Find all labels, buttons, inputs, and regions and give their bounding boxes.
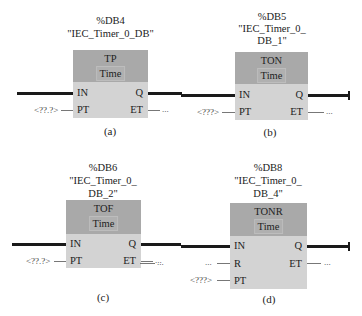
pin-pt: PT — [234, 275, 246, 287]
instance-name-line2: DB_2" — [53, 187, 153, 200]
caption: (b) — [255, 126, 285, 138]
et-connector — [307, 263, 321, 264]
rail-terminator — [348, 91, 350, 100]
timer-block[interactable]: TOF Time IN PT Q ET — [66, 200, 141, 268]
pin-q: Q — [128, 238, 136, 250]
pin-q: Q — [135, 87, 143, 99]
timer-type: TP — [73, 53, 148, 64]
power-rail-out — [308, 94, 349, 97]
pin-in: IN — [234, 240, 245, 252]
db-address: %DB6 — [53, 161, 153, 174]
timer-type: TONR — [230, 206, 307, 217]
power-rail-in — [181, 245, 230, 248]
pin-in: IN — [70, 238, 81, 250]
pt-value[interactable]: <???> — [197, 107, 219, 117]
pin-in: IN — [77, 87, 88, 99]
timer-type: TOF — [66, 203, 141, 214]
pt-connector — [54, 261, 66, 262]
power-rail-in — [17, 92, 73, 95]
power-rail-out — [141, 243, 181, 246]
instance-name: "IEC_Timer_0_DB" — [50, 27, 171, 40]
pin-pt: PT — [239, 106, 251, 118]
timer-type: TON — [235, 55, 308, 66]
rail-terminator — [348, 242, 350, 251]
power-rail-in — [181, 94, 235, 97]
pt-connector — [217, 280, 230, 281]
caption: (d) — [254, 293, 284, 305]
pin-q: Q — [295, 89, 303, 101]
caption: (a) — [95, 125, 125, 137]
r-value[interactable]: ... — [205, 257, 212, 267]
db-address: %DB4 — [60, 14, 161, 27]
timer-block[interactable]: TON Time IN PT Q ET — [235, 52, 308, 120]
instance-name-line2: DB_4" — [218, 187, 318, 200]
instance-name-line1: "IEC_Timer_0_ — [43, 174, 163, 187]
time-type-field[interactable]: Time — [89, 216, 119, 231]
et-connector — [148, 110, 160, 111]
pin-et: ET — [123, 255, 136, 267]
power-rail-in — [12, 243, 66, 246]
et-value[interactable]: ... — [162, 104, 169, 114]
et-value[interactable]: ... — [326, 106, 333, 116]
pt-connector — [61, 110, 73, 111]
pin-pt: PT — [70, 255, 82, 267]
pin-q: Q — [294, 240, 302, 252]
time-type-field[interactable]: Time — [257, 68, 287, 83]
block-header: TON Time — [235, 52, 308, 84]
stray-ellipsis: ... — [157, 257, 164, 267]
et-connector — [308, 112, 324, 113]
block-header: TP Time — [73, 50, 148, 82]
pin-et: ET — [289, 258, 302, 270]
pin-et: ET — [130, 104, 143, 116]
pin-in: IN — [239, 89, 250, 101]
block-header: TOF Time — [66, 200, 141, 234]
block-header: TONR Time — [230, 203, 307, 236]
r-connector — [217, 263, 230, 264]
pt-connector — [222, 112, 235, 113]
pt-value[interactable]: <???> — [190, 275, 212, 285]
instance-name-line2: DB_1" — [222, 34, 322, 47]
power-rail-out — [148, 92, 182, 95]
pt-value[interactable]: <??.?> — [26, 256, 50, 266]
et-value[interactable]: ... — [324, 257, 331, 267]
timer-block[interactable]: TP Time IN PT Q ET — [73, 50, 148, 118]
time-type-field[interactable]: Time — [96, 66, 126, 81]
db-address: %DB8 — [218, 161, 318, 174]
instance-name-line1: "IEC_Timer_0_ — [208, 174, 328, 187]
caption: (c) — [88, 291, 118, 303]
pin-et: ET — [290, 106, 303, 118]
time-type-field[interactable]: Time — [254, 219, 284, 234]
timer-block[interactable]: TONR Time IN R PT Q ET — [230, 203, 307, 289]
pt-value[interactable]: <??.?> — [34, 105, 58, 115]
pin-pt: PT — [77, 104, 89, 116]
pin-r: R — [234, 258, 241, 270]
power-rail-out — [307, 245, 349, 248]
et-connector — [141, 261, 153, 262]
stray-connector — [140, 263, 155, 264]
